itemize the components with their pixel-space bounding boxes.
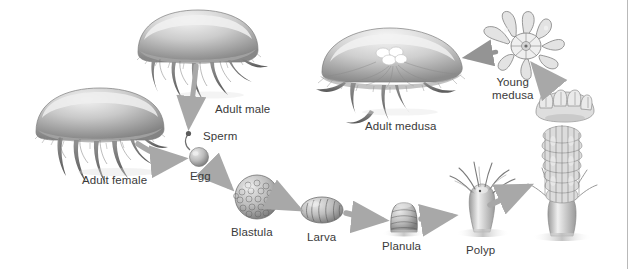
label-sperm: Sperm [203,130,237,143]
label-young-medusa: Young medusa [492,76,534,102]
strobila-illustration [528,125,597,241]
label-adult-medusa: Adult medusa [365,120,437,133]
young-medusa-illustration [484,11,564,79]
arrow-larva-to-planula [346,213,382,220]
life-cycle-illustration [0,0,628,269]
label-larva: Larva [307,231,336,244]
label-planula: Planula [382,240,421,253]
label-adult-male: Adult male [215,103,270,116]
arrow-young-medusa-to-adult-medusa [468,52,496,57]
label-adult-female: Adult female [82,174,147,187]
adult-female-illustration [35,88,168,184]
blastula-illustration [234,175,280,219]
label-polyp: Polyp [466,244,495,257]
adult-medusa-illustration [316,28,465,124]
arrow-egg-to-blastula [210,166,229,186]
adult-male-illustration [137,10,268,100]
label-blastula: Blastula [231,226,273,239]
arrow-blastula-to-larva [281,199,297,208]
label-egg: Egg [190,170,211,183]
larva-illustration [301,197,343,223]
sperm-illustration [186,131,192,150]
arrow-planula-to-polyp [421,216,451,219]
arrow-strobila-to-young-medusa [535,67,552,88]
jellyfish-life-cycle-figure: Adult female Adult male Sperm Egg Blastu… [0,0,628,269]
arrow-polyp-to-strobila [490,187,527,205]
ephyra-illustration [536,90,594,122]
egg-illustration [190,148,209,167]
